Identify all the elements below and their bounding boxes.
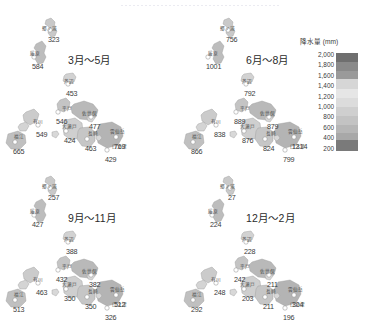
station-value-label: 866 — [191, 148, 202, 155]
station-value-label: 1001 — [206, 63, 221, 70]
colorbar-tick-label: 600 — [323, 124, 334, 131]
station-value-label: 323 — [48, 36, 59, 43]
station-value-label: 382 — [89, 281, 100, 288]
station-value-label: 248 — [214, 289, 225, 296]
station-name-label: 有川 — [33, 278, 43, 283]
panel-title: 12月～2月 — [246, 210, 295, 225]
station-name-label: 有川 — [211, 120, 221, 125]
station-value-label: 292 — [191, 306, 202, 313]
station-name-label: 芦辺 — [64, 238, 74, 243]
station-name-label: 大瀬戸 — [62, 125, 77, 130]
figure-root: 3月～5月郷ノ浦323厳原584芦辺453平戸546佐世保477大瀬戸424有川… — [0, 0, 373, 321]
station-value-label: 257 — [48, 194, 59, 201]
station-value-label: 876 — [242, 137, 253, 144]
station-name-label: 郷ノ浦 — [42, 185, 57, 190]
station-value-label: 477 — [89, 123, 100, 130]
station-name-label: 厳原 — [208, 210, 218, 215]
station-name-label: 芦辺 — [242, 80, 252, 85]
station-name-label: 長崎 — [88, 132, 98, 137]
station-value-label: 838 — [214, 131, 225, 138]
station-name-label: 芦辺 — [64, 80, 74, 85]
station-name-label: 雲仙岳 — [110, 130, 125, 135]
colorbar-tick-label: 2,000 — [318, 51, 334, 58]
top-dotted-rule — [120, 4, 280, 7]
station-name-label: 佐世保 — [260, 270, 275, 275]
station-name-label: 長崎 — [266, 132, 276, 137]
station-name-label: 口之津 — [112, 145, 127, 150]
colorbar-tick-label: 1,600 — [318, 72, 334, 79]
station-name-label: 厳原 — [208, 52, 218, 57]
station-value-label: 824 — [263, 145, 274, 152]
station-value-label: 211 — [267, 281, 278, 288]
station-value-label: 196 — [283, 314, 294, 321]
station-name-label: 佐世保 — [260, 112, 275, 117]
station-name-label: 厳原 — [30, 52, 40, 57]
colorbar-tick-label: 400 — [323, 134, 334, 141]
station-value-label: 549 — [36, 131, 47, 138]
colorbar-tick-label: 800 — [323, 113, 334, 120]
colorbar-tick-label: 1,200 — [318, 93, 334, 100]
map-canvas: 12月～2月郷ノ浦27厳原224芦辺228平戸242佐世保211大瀬戸203有川… — [178, 166, 363, 321]
station-value-label: 424 — [64, 137, 75, 144]
station-value-label: 388 — [66, 248, 77, 255]
station-value-label: 326 — [105, 314, 116, 321]
map-canvas: 9月～11月郷ノ浦257厳原427芦辺388平戸432佐世保382大瀬戸350有… — [0, 166, 185, 321]
station-name-label: 平戸 — [240, 107, 250, 112]
legend-title: 降水量 (mm) — [300, 36, 338, 46]
station-value-label: 427 — [32, 221, 43, 228]
station-value-label: 203 — [242, 295, 253, 302]
station-name-label: 芦辺 — [242, 238, 252, 243]
station-value-label: 211 — [263, 303, 274, 310]
colorbar — [336, 53, 358, 151]
station-value-label: 27 — [228, 194, 236, 201]
station-name-label: 佐世保 — [82, 270, 97, 275]
station-name-label: 長崎 — [88, 290, 98, 295]
station-name-label: 雲仙岳 — [110, 288, 125, 293]
station-name-label: 口之津 — [112, 303, 127, 308]
station-name-label: 郷ノ浦 — [220, 27, 235, 32]
colorbar-tick-label: 1,000 — [318, 103, 334, 110]
station-value-label: 584 — [32, 63, 43, 70]
station-name-label: 厳原 — [30, 210, 40, 215]
station-name-label: 有川 — [33, 120, 43, 125]
station-name-label: 福江 — [14, 293, 24, 298]
panel-title: 9月～11月 — [68, 210, 116, 225]
station-name-label: 郷ノ浦 — [42, 27, 57, 32]
station-value-label: 792 — [244, 90, 255, 97]
station-value-label: 350 — [85, 303, 96, 310]
station-name-label: 有川 — [211, 278, 221, 283]
station-name-label: 雲仙岳 — [288, 288, 303, 293]
station-value-label: 228 — [244, 248, 255, 255]
station-value-label: 350 — [64, 295, 75, 302]
colorbar-tick-label: 200 — [323, 145, 334, 152]
station-name-label: 郷ノ浦 — [220, 185, 235, 190]
panel-title: 6月～8月 — [246, 52, 289, 67]
station-value-label: 513 — [13, 306, 24, 313]
station-name-label: 大瀬戸 — [240, 283, 255, 288]
station-name-label: 平戸 — [240, 265, 250, 270]
station-value-label: 224 — [210, 221, 221, 228]
map-canvas: 3月～5月郷ノ浦323厳原584芦辺453平戸546佐世保477大瀬戸424有川… — [0, 8, 185, 168]
station-name-label: 平戸 — [62, 265, 72, 270]
station-name-label: 平戸 — [62, 107, 72, 112]
station-name-label: 大瀬戸 — [62, 283, 77, 288]
prefecture-outline-icon — [0, 166, 185, 321]
prefecture-outline-icon — [178, 166, 363, 321]
station-value-label: 463 — [85, 145, 96, 152]
station-value-label: 665 — [13, 148, 24, 155]
station-name-label: 福江 — [192, 135, 202, 140]
station-value-label: 463 — [36, 289, 47, 296]
station-value-label: 453 — [66, 90, 77, 97]
station-value-label: 799 — [283, 156, 294, 163]
station-name-label: 佐世保 — [82, 112, 97, 117]
colorbar-tick-label: 1,400 — [318, 82, 334, 89]
station-value-label: 429 — [105, 156, 116, 163]
station-name-label: 長崎 — [266, 290, 276, 295]
station-name-label: 口之津 — [290, 303, 305, 308]
station-value-label: 879 — [267, 123, 278, 130]
station-name-label: 福江 — [14, 135, 24, 140]
panel-title: 3月～5月 — [68, 52, 111, 67]
station-name-label: 大瀬戸 — [240, 125, 255, 130]
legend: 降水量 (mm) 2,0001,8001,6001,4001,2001,0008… — [296, 36, 372, 158]
station-value-label: 756 — [226, 36, 237, 43]
